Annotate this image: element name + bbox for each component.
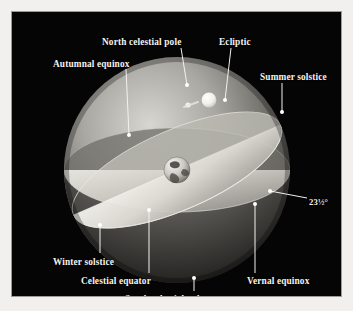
- figure-container: North celestial poleEclipticAutumnal equ…: [0, 0, 353, 311]
- leader-dot-autumnal-equinox: [127, 133, 131, 137]
- leader-dot-vernal-equinox: [253, 202, 257, 206]
- label-tilt-angle: 23½°: [309, 198, 328, 207]
- label-ecliptic: Ecliptic: [219, 38, 251, 47]
- label-autumnal-equinox: Autumnal equinox: [53, 60, 130, 69]
- leader-dot-tilt-angle: [268, 189, 272, 193]
- label-winter-solstice: Winter solstice: [53, 258, 114, 267]
- diagram-panel: North celestial poleEclipticAutumnal equ…: [12, 12, 341, 296]
- sun-body: [202, 93, 217, 108]
- label-north-celestial-pole: North celestial pole: [102, 38, 181, 47]
- label-vernal-equinox: Vernal equinox: [247, 277, 309, 286]
- label-summer-solstice: Summer solstice: [260, 73, 327, 82]
- leader-dot-south-celestial-pole: [192, 276, 196, 280]
- label-south-celestial-pole: South celestial pole: [125, 295, 204, 296]
- leader-dot-summer-solstice: [280, 110, 284, 114]
- earth-body: [164, 157, 190, 183]
- leader-dot-winter-solstice: [98, 223, 102, 227]
- leader-dot-ecliptic: [223, 98, 227, 102]
- leader-dot-celestial-equator: [147, 208, 151, 212]
- leader-dot-north-celestial-pole: [185, 83, 189, 87]
- label-celestial-equator: Celestial equator: [81, 277, 151, 286]
- celestial-sphere-scene: [12, 12, 341, 296]
